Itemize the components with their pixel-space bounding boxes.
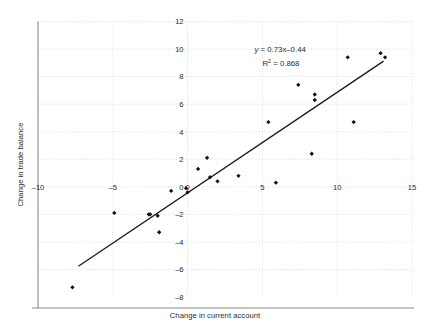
y-tick-label: 6	[179, 100, 183, 109]
equation-annotation: y = 0.73x–0.44R2 = 0.868	[253, 45, 306, 68]
x-tick-label: 15	[408, 183, 416, 192]
data-point	[378, 51, 382, 55]
data-point	[169, 189, 173, 193]
data-point	[274, 181, 278, 185]
x-tick-labels: –10–5051015	[32, 183, 417, 192]
regression-line	[78, 61, 383, 266]
y-tick-label: 0	[179, 183, 183, 192]
y-tick-label: 10	[175, 45, 183, 54]
data-point	[383, 55, 387, 59]
r-squared-text: R2 = 0.868	[262, 58, 299, 68]
data-point	[313, 98, 317, 102]
x-tick-label: 10	[333, 183, 341, 192]
data-point	[70, 285, 74, 289]
x-tick-label: 5	[260, 183, 264, 192]
data-point	[296, 83, 300, 87]
data-point	[346, 55, 350, 59]
data-point	[205, 156, 209, 160]
y-tick-label: 4	[179, 128, 183, 137]
scatter-chart: –10–5051015 –8–6–4–2024681012 y = 0.73x–…	[0, 0, 430, 332]
axis-lines	[32, 22, 414, 309]
data-point	[157, 230, 161, 234]
x-axis-title: Change in current account	[0, 311, 430, 320]
x-tick-label: –10	[32, 183, 45, 192]
data-point	[310, 152, 314, 156]
data-point	[313, 92, 317, 96]
y-tick-label: –6	[175, 265, 183, 274]
data-points	[70, 51, 387, 289]
y-tick-label: 2	[179, 155, 183, 164]
data-point	[352, 120, 356, 124]
y-tick-label: –4	[175, 238, 183, 247]
y-axis-title: Change in trade balance	[16, 100, 25, 230]
y-tick-label: –8	[175, 293, 183, 302]
plot-area: –10–5051015 –8–6–4–2024681012 y = 0.73x–…	[0, 0, 430, 332]
y-tick-label: 8	[179, 72, 183, 81]
data-point	[236, 174, 240, 178]
x-tick-label: –5	[109, 183, 117, 192]
horizontal-gridlines	[38, 22, 412, 270]
data-point	[215, 179, 219, 183]
y-tick-label: –2	[175, 210, 183, 219]
y-tick-label: 12	[175, 17, 183, 26]
equation-text: y = 0.73x–0.44	[253, 45, 306, 54]
data-point	[196, 167, 200, 171]
data-point	[266, 120, 270, 124]
